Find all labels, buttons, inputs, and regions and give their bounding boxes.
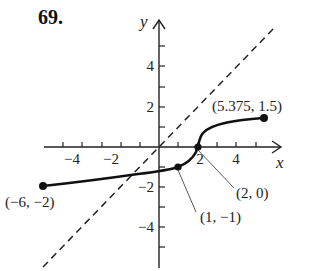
- annotation-2-0: (2, 0): [236, 185, 269, 202]
- y-axis: 4 2 −2 −4 y: [138, 12, 165, 268]
- annotation-1-neg1: (1, −1): [200, 209, 241, 226]
- x-tick-label: 2: [196, 151, 204, 167]
- point-start: [39, 182, 47, 190]
- leader-line: [178, 170, 196, 212]
- x-tick-label: 4: [232, 151, 240, 167]
- point-2-0: [194, 143, 201, 150]
- y-tick-label: −2: [138, 179, 154, 195]
- annotation-end-point: (5.375, 1.5): [212, 98, 282, 115]
- y-tick-label: 2: [147, 99, 155, 115]
- x-tick-label: −2: [103, 151, 119, 167]
- annotation-start-point: (−6, −2): [5, 194, 54, 211]
- graph: −4 −2 2 4 x 4 2 −2 −4 y: [0, 0, 312, 271]
- x-axis-label: x: [275, 153, 284, 172]
- x-tick-label: −4: [64, 151, 80, 167]
- point-end: [260, 114, 268, 122]
- y-axis-label: y: [138, 12, 148, 31]
- point-1-neg1: [174, 163, 181, 170]
- y-tick-label: −4: [138, 219, 154, 235]
- y-tick-label: 4: [147, 58, 155, 74]
- leader-line: [198, 150, 234, 188]
